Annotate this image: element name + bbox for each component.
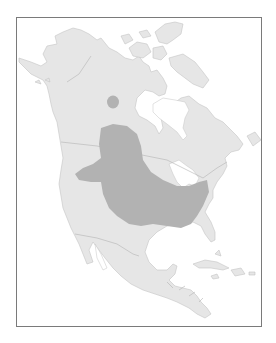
range-disjunct bbox=[107, 96, 119, 109]
bahamas bbox=[215, 250, 221, 256]
arctic-island bbox=[129, 42, 151, 58]
arctic-island bbox=[121, 34, 133, 44]
baffin-island bbox=[169, 54, 209, 88]
map-frame bbox=[16, 17, 262, 327]
newfoundland bbox=[247, 132, 261, 146]
jamaica bbox=[211, 274, 219, 279]
arctic-island bbox=[155, 22, 183, 44]
hispaniola bbox=[231, 268, 245, 276]
arctic-island bbox=[153, 46, 167, 60]
cuba bbox=[193, 260, 229, 270]
puerto-rico bbox=[249, 272, 255, 275]
arctic-island bbox=[139, 30, 151, 38]
aleutian-island bbox=[35, 80, 41, 84]
north-america-map bbox=[17, 18, 262, 327]
